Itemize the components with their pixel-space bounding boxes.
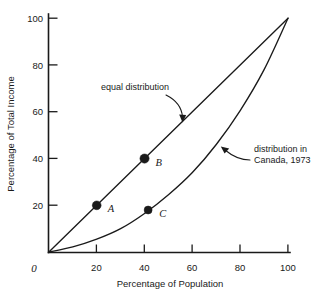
y-tick-label-40: 40 [32, 153, 43, 164]
data-point-label-B: B [156, 157, 163, 168]
x-tick-label-100: 100 [280, 262, 296, 273]
data-point-label-C: C [159, 208, 167, 219]
x-axis-title: Percentage of Population [117, 278, 224, 289]
annotation-canada-text-line1: distribution in [254, 144, 307, 154]
data-point-A [92, 201, 101, 210]
y-tick-label-80: 80 [32, 60, 43, 71]
annotation-canada-text-line2: Canada, 1973 [254, 155, 311, 165]
annotation-equal-distribution-arrow [166, 95, 183, 117]
y-tick-label-60: 60 [32, 106, 43, 117]
annotation-equal-distribution-text: equal distribution [101, 82, 169, 92]
y-axis-title: Percentage of Total Income [5, 76, 16, 191]
data-point-C [144, 206, 152, 214]
data-point-label-A: A [107, 203, 115, 214]
x-tick-label-20: 20 [91, 262, 102, 273]
x-axis [49, 245, 291, 253]
data-point-B [140, 154, 149, 163]
lorenz-curve-figure: 100 80 60 40 20 0 20 40 60 80 100 Percen… [0, 0, 316, 292]
equal-distribution-line [49, 18, 288, 252]
x-tick-label-40: 40 [139, 262, 150, 273]
x-tick-label-0: 0 [31, 262, 37, 274]
y-tick-label-100: 100 [27, 13, 43, 24]
chart-canvas: 100 80 60 40 20 0 20 40 60 80 100 Percen… [0, 0, 316, 292]
x-tick-label-80: 80 [235, 262, 246, 273]
annotation-canada-arrow [225, 150, 250, 160]
y-axis [49, 14, 58, 253]
y-tick-label-20: 20 [32, 200, 43, 211]
x-tick-label-60: 60 [187, 262, 198, 273]
